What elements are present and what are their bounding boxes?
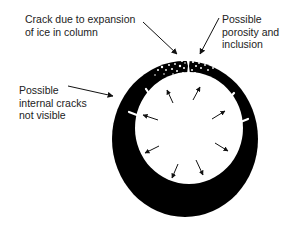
column-cross-section-diagram [0,0,287,227]
leader-arrow-internal [68,86,113,96]
inner-bore [135,72,243,184]
leader-arrow-crack [143,22,177,54]
ring [112,61,258,217]
leader-arrow-porosity [200,18,219,54]
